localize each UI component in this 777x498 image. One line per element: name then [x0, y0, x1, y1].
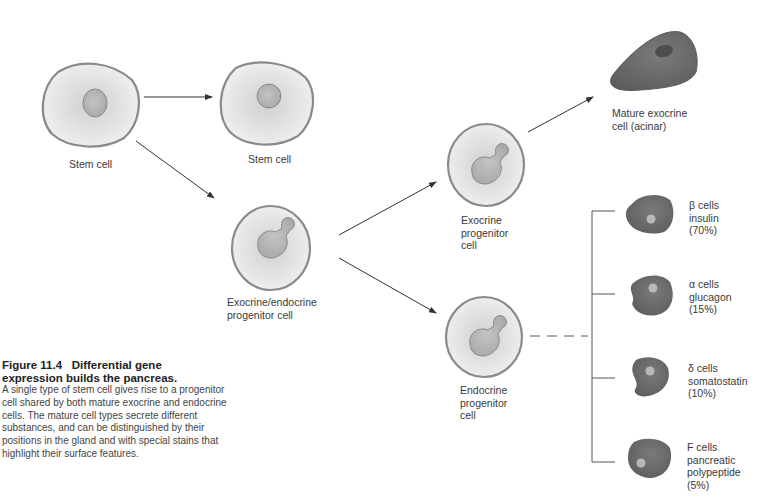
figure-caption: Figure 11.4 Differential gene expression… — [2, 359, 302, 461]
arrow-to-exocrine-progenitor — [339, 182, 436, 235]
exo-endo-progenitor-cell — [232, 206, 310, 290]
caption-title: Figure 11.4 Differential gene expression… — [2, 359, 302, 384]
f-cell-label: F cells pancreatic polypeptide (5%) — [687, 441, 741, 491]
exocrine-progenitor-cell — [448, 124, 524, 206]
beta-cell-label: β cells insulin (70%) — [689, 199, 719, 237]
arrow-stem-to-progenitor — [136, 141, 214, 198]
mature-exocrine-cell — [611, 32, 698, 91]
exo-endo-progenitor-label: Exocrine/endocrine progenitor cell — [227, 296, 317, 321]
stem-cell-1-label: Stem cell — [69, 158, 112, 171]
beta-cell-graphic — [626, 195, 673, 233]
arrow-to-mature-exocrine — [528, 97, 593, 132]
caption-body: A single type of stem cell gives rise to… — [2, 384, 234, 461]
endocrine-progenitor-cell — [446, 297, 522, 377]
endocrine-progenitor-label: Endocrine progenitor cell — [460, 384, 507, 422]
stem-cell-2 — [221, 63, 313, 145]
stem-cell-1 — [43, 64, 139, 147]
delta-cell-label: δ cells somatostatin (10%) — [688, 362, 748, 400]
alpha-cell-graphic — [631, 275, 673, 315]
delta-cell-graphic — [632, 357, 669, 396]
stem-cell-2-label: Stem cell — [248, 153, 291, 166]
mature-exocrine-label: Mature exocrine cell (acinar) — [612, 107, 687, 132]
alpha-cell-label: α cells glucagon (15%) — [689, 278, 732, 316]
arrow-to-endocrine-progenitor — [339, 258, 436, 313]
pancreas-differentiation-diagram: Stem cell Stem cell Exocrine/endocrine p… — [0, 0, 777, 498]
f-cell-graphic — [628, 439, 671, 478]
exocrine-progenitor-label: Exocrine progenitor cell — [461, 214, 508, 252]
